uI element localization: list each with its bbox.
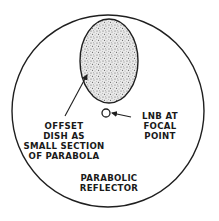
lnb-focal-point-icon [102,109,110,117]
parabolic-reflector-diagram: LNB AT FOCAL POINT OFFSET DISH AS SMALL … [0,0,219,221]
offset-dish-pointer-arrow [65,75,87,116]
lnb-label: LNB AT FOCAL POINT [142,111,178,141]
offset-dish-label-line-2: DISH AS [43,131,85,141]
offset-dish-label: OFFSET DISH AS SMALL SECTION OF PARABOLA [23,121,104,161]
offset-dish-label-line-4: OF PARABOLA [29,151,100,161]
reflector-label-line-2: REFLECTOR [80,183,139,193]
lnb-label-line-3: POINT [144,131,175,141]
offset-dish-label-line-3: SMALL SECTION [23,141,104,151]
lnb-pointer-arrow [112,113,131,117]
parabolic-reflector-label: PARABOLIC REFLECTOR [80,173,139,193]
lnb-label-line-2: FOCAL [143,121,176,131]
offset-dish-ellipse [80,19,138,103]
reflector-label-line-1: PARABOLIC [81,173,138,183]
lnb-label-line-1: LNB AT [142,111,178,121]
offset-dish-label-line-1: OFFSET [45,121,84,131]
